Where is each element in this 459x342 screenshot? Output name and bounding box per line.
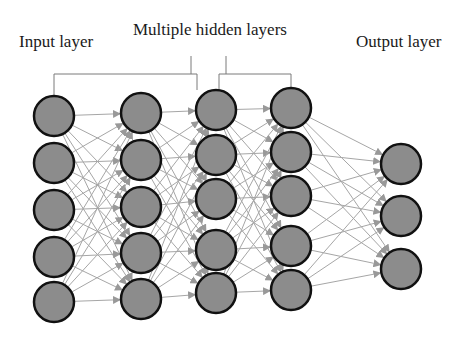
hidden-2-node-4	[196, 230, 236, 270]
hidden-3-node-3	[271, 176, 311, 216]
hidden-3-node-5	[271, 270, 311, 310]
neural-network-diagram	[0, 0, 459, 342]
connection-edge	[308, 207, 384, 257]
connection-edge	[308, 162, 383, 205]
input-bracket	[54, 74, 197, 96]
connection-edge	[236, 247, 270, 249]
connection-edge	[71, 263, 122, 292]
hidden-2-node-2	[196, 135, 236, 175]
hidden-bracket	[219, 74, 291, 90]
hidden-3-node-4	[271, 226, 311, 266]
hidden-2-node-1	[196, 90, 236, 130]
connection-edge	[307, 177, 384, 234]
connection-edge	[305, 122, 386, 201]
connection-edge	[161, 111, 195, 112]
connection-edge	[310, 222, 380, 241]
connection-edge	[74, 300, 120, 302]
connection-edge	[311, 250, 381, 265]
hidden-1-node-3	[121, 187, 161, 227]
input-node-4	[34, 237, 74, 277]
connection-edge	[311, 154, 380, 162]
input-node-5	[34, 282, 74, 322]
connection-edge	[71, 123, 122, 153]
hidden-3-node-1	[271, 88, 311, 128]
hidden-1-node-1	[121, 93, 161, 133]
input-node-3	[34, 190, 74, 230]
output-node-3	[381, 249, 421, 289]
neurons	[34, 88, 421, 322]
output-node-1	[381, 144, 421, 184]
connection-edge	[161, 295, 195, 298]
hidden-2-node-5	[196, 273, 236, 313]
output-node-2	[381, 196, 421, 236]
connection-edge	[236, 291, 270, 292]
input-node-1	[34, 96, 74, 136]
connection-edge	[74, 114, 120, 116]
connection-edge	[236, 109, 270, 110]
hidden-3-node-2	[271, 132, 311, 172]
connection-edge	[308, 228, 384, 279]
hidden-1-node-4	[121, 233, 161, 273]
hidden-1-node-5	[121, 279, 161, 319]
hidden-2-node-3	[196, 179, 236, 219]
hidden-1-node-2	[121, 140, 161, 180]
layer-brackets	[54, 56, 291, 96]
connection-edge	[233, 257, 273, 282]
input-node-2	[34, 143, 74, 183]
connection-edge	[311, 273, 381, 286]
